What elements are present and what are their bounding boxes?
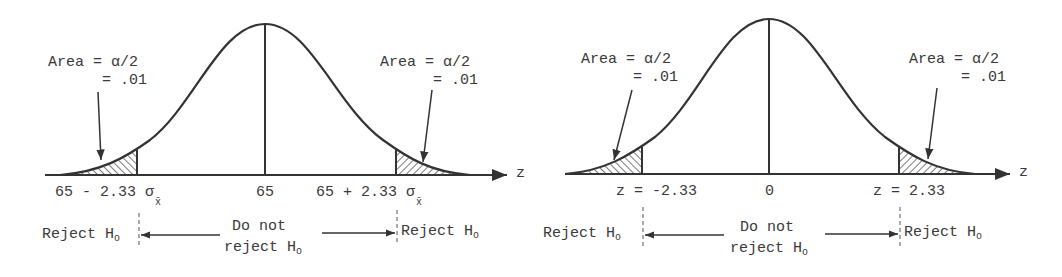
right-area-arrow [928, 88, 937, 159]
region-reject-right: Reject Ho [904, 224, 982, 242]
right-area-label-line2: = .01 [961, 69, 1006, 86]
hypothesis-test-figure: Area = α/2 = .01 Area = α/2 = .01 z 65 -… [0, 0, 1062, 277]
region-do-not-reject-line1: Do not [740, 219, 794, 236]
left-tail-shading [575, 147, 642, 174]
region-reject-right: Reject Ho [401, 223, 479, 241]
right-area-label-line1: Area = α/2 [380, 54, 470, 71]
right-area-arrow [423, 90, 432, 162]
tick-mean: 0 [765, 183, 774, 200]
diagram-right: Area = α/2 = .01 Area = α/2 = .01 z z = … [543, 19, 1028, 258]
diagram-left: Area = α/2 = .01 Area = α/2 = .01 z 65 -… [42, 24, 525, 257]
region-reject-left: Reject Ho [543, 225, 621, 243]
region-do-not-reject-line1: Do not [232, 218, 286, 235]
tick-left-critical: 65 - 2.33 σx̄ [55, 184, 161, 208]
right-tail-shading [899, 147, 967, 174]
left-area-label-line2: = .01 [102, 72, 147, 89]
region-do-not-reject-line2: reject Ho [224, 239, 302, 257]
tick-mean: 65 [256, 184, 274, 201]
region-reject-left: Reject Ho [42, 226, 120, 244]
tick-right-critical: 65 + 2.33 σx̄ [316, 184, 422, 208]
region-do-not-reject-line2: reject Ho [730, 240, 808, 258]
right-tail-shading [396, 150, 463, 175]
tick-right-critical: z = 2.33 [873, 183, 945, 200]
tick-left-critical: z = -2.33 [616, 183, 697, 200]
left-area-arrow [614, 90, 632, 160]
right-area-label-line1: Area = α/2 [909, 51, 999, 68]
left-area-arrow [98, 92, 101, 160]
right-area-label-line2: = .01 [433, 72, 478, 89]
left-area-label-line2: = .01 [633, 69, 678, 86]
left-area-label-line1: Area = α/2 [48, 54, 138, 71]
axis-label-z: z [1019, 164, 1028, 181]
axis-label-z: z [516, 165, 525, 182]
left-area-label-line1: Area = α/2 [581, 51, 671, 68]
